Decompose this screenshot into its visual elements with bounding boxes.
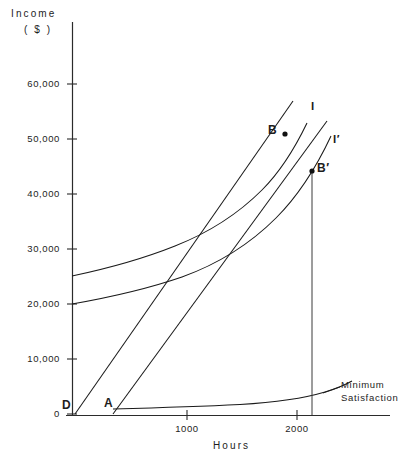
indifference-curve-I-prime	[72, 136, 331, 304]
y-tick-label-50000: 50,000	[8, 133, 60, 145]
curve-label-I: I	[311, 99, 315, 113]
y-tick-label-40000: 40,000	[8, 188, 60, 200]
curve-label-I-prime: I′	[333, 132, 340, 146]
x-tick-label-1000: 1000	[164, 423, 210, 435]
y-tick-label-0: 0	[8, 408, 60, 420]
budget-line-from-A	[113, 121, 327, 414]
annotation-D: D	[62, 398, 71, 413]
minimum-satisfaction-leader	[323, 387, 340, 393]
x-axis-title: Hours	[213, 440, 250, 453]
indifference-curve-I	[72, 123, 307, 276]
minimum-satisfaction-label-line2: Satisfaction	[341, 391, 399, 405]
y-tick-label-20000: 20,000	[8, 298, 60, 310]
annotation-B: B	[268, 123, 277, 138]
point-B-prime-marker	[309, 168, 314, 173]
y-tick-label-30000: 30,000	[8, 243, 60, 255]
y-axis-title-line2: ( $ )	[24, 24, 52, 37]
minimum-satisfaction-curve	[113, 381, 352, 409]
y-tick-label-60000: 60,000	[8, 78, 60, 90]
annotation-A: A	[104, 396, 113, 411]
y-axis-title-line1: Income	[11, 8, 56, 21]
y-tick-label-10000: 10,000	[8, 353, 60, 365]
minimum-satisfaction-label-line1: Minimum	[341, 378, 384, 392]
x-tick-label-2000: 2000	[274, 423, 320, 435]
point-B-marker	[282, 131, 287, 136]
budget-line-from-D	[75, 101, 293, 414]
annotation-B-prime: B′	[317, 161, 330, 176]
income-hours-chart: Income ( $ ) 60,000 50,000 40,000 30,000…	[0, 0, 401, 459]
